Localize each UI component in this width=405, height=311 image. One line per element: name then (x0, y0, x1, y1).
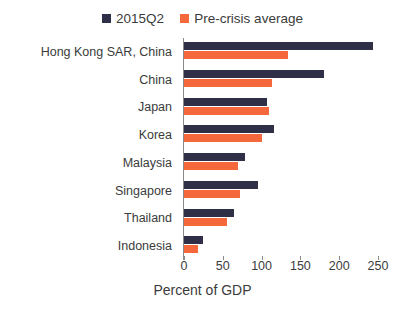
bar (184, 236, 203, 244)
bar (184, 218, 227, 226)
axis-tick-label: 50 (216, 260, 230, 273)
bar (184, 70, 324, 78)
plot-area: Hong Kong SAR, ChinaChinaJapanKoreaMalay… (0, 38, 405, 260)
bar-chart: 2015Q2Pre-crisis average Hong Kong SAR, … (0, 0, 405, 311)
bar (184, 107, 269, 115)
legend-swatch-icon (102, 14, 111, 23)
bar (184, 42, 373, 50)
bar (184, 245, 198, 253)
category-label: Malaysia (123, 157, 172, 170)
axis-title: Percent of GDP (0, 283, 405, 297)
axis-tick-label: 200 (329, 260, 350, 273)
category-label: Thailand (124, 212, 172, 225)
bar (184, 190, 240, 198)
bar (184, 153, 245, 161)
category-axis: Hong Kong SAR, ChinaChinaJapanKoreaMalay… (0, 38, 178, 260)
chart-legend: 2015Q2Pre-crisis average (0, 12, 405, 26)
category-label: Japan (138, 101, 172, 114)
axis-tick-label: 150 (290, 260, 311, 273)
category-label: Singapore (115, 185, 172, 198)
axis-tick-label: 0 (181, 260, 188, 273)
bar (184, 98, 267, 106)
bar (184, 181, 258, 189)
value-axis: 050100150200250 (0, 260, 405, 280)
axis-tick-label: 100 (251, 260, 272, 273)
legend-label: 2015Q2 (116, 12, 164, 26)
legend-entry[interactable]: Pre-crisis average (180, 12, 303, 26)
category-label: China (139, 74, 172, 87)
axis-tick-label: 250 (368, 260, 389, 273)
bar (184, 79, 272, 87)
category-label: Hong Kong SAR, China (41, 46, 172, 59)
category-label: Indonesia (118, 240, 172, 253)
bar (184, 162, 238, 170)
category-label: Korea (139, 129, 172, 142)
bar (184, 51, 288, 59)
bars-region (184, 38, 380, 260)
bar (184, 125, 274, 133)
bar (184, 209, 234, 217)
bar (184, 134, 262, 142)
legend-label: Pre-crisis average (194, 12, 303, 26)
legend-entry[interactable]: 2015Q2 (102, 12, 164, 26)
legend-swatch-icon (180, 14, 189, 23)
